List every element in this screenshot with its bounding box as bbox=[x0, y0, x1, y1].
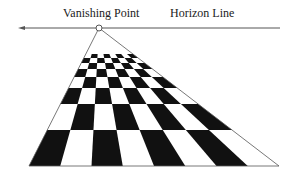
perspective-diagram: Vanishing Point Horizon Line bbox=[0, 0, 299, 179]
vanishing-point-marker bbox=[96, 25, 102, 31]
checkerboard-perspective bbox=[0, 0, 299, 179]
